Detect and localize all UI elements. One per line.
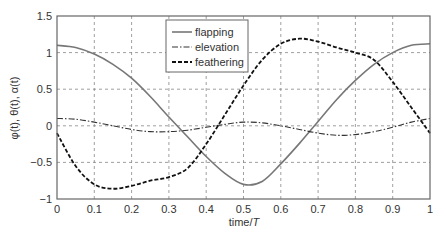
x-axis-label: time/T [229,216,261,228]
x-tick-label: 0.9 [385,203,400,215]
legend-label-flapping: flapping [195,26,234,38]
y-axis-label: φ(t), θ(t), α(t) [8,77,20,140]
x-axis-ticks: 00.10.20.30.40.50.60.70.80.91 [54,203,433,215]
x-tick-label: 0.4 [199,203,214,215]
legend-label-feathering: feathering [195,56,244,68]
y-tick-label: 1.5 [37,10,52,22]
x-tick-label: 0.3 [161,203,176,215]
x-tick-label: 0.6 [273,203,288,215]
line-chart: 00.10.20.30.40.50.60.70.80.91 −1−0.500.5… [0,0,446,238]
y-axis-ticks: −1−0.500.511.5 [30,10,52,205]
y-tick-label: −1 [39,193,52,205]
x-tick-label: 0 [54,203,60,215]
x-tick-label: 0.8 [348,203,363,215]
x-tick-label: 0.1 [87,203,102,215]
x-tick-label: 1 [427,203,433,215]
y-tick-label: 0 [46,120,52,132]
legend-label-elevation: elevation [195,41,239,53]
y-tick-label: 0.5 [37,83,52,95]
x-tick-label: 0.2 [124,203,139,215]
x-tick-label: 0.7 [310,203,325,215]
y-tick-label: 1 [46,47,52,59]
y-tick-label: −0.5 [30,156,52,168]
legend: flappingelevationfeathering [166,20,248,72]
x-tick-label: 0.5 [236,203,251,215]
